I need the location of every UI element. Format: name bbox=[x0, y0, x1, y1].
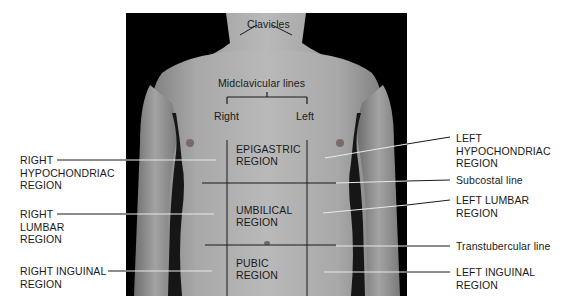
region-epigastric: EPIGASTRIC REGION bbox=[236, 143, 301, 167]
label-left-lumbar: LEFT LUMBAR REGION bbox=[456, 194, 529, 219]
label-right-hypochondriac: RIGHT HYPOCHONDRIAC REGION bbox=[20, 154, 115, 192]
label-right: Right bbox=[214, 110, 239, 122]
label-left: Left bbox=[296, 110, 314, 122]
label-clavicles: Clavicles bbox=[247, 18, 290, 30]
label-subcostal-line: Subcostal line bbox=[456, 174, 523, 187]
region-umbilical: UMBILICAL REGION bbox=[236, 204, 292, 228]
region-pubic: PUBIC REGION bbox=[236, 257, 278, 281]
label-transtubercular-line: Transtubercular line bbox=[456, 240, 550, 253]
label-midclavicular-lines: Midclavicular lines bbox=[218, 77, 305, 89]
label-right-inguinal: RIGHT INGUINAL REGION bbox=[20, 265, 106, 290]
label-left-hypochondriac: LEFT HYPOCHONDRIAC REGION bbox=[456, 132, 551, 170]
label-right-lumbar: RIGHT LUMBAR REGION bbox=[20, 208, 64, 246]
label-left-inguinal: LEFT INGUINAL REGION bbox=[456, 266, 535, 291]
